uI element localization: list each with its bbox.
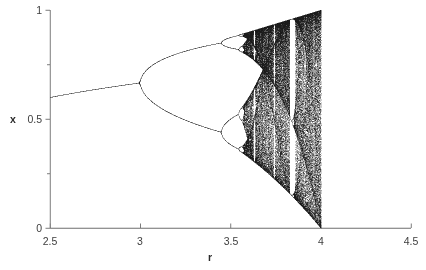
bifurcation-diagram-figure: 1 0.5 0 x 2.5 3 3.5 4 4.5 r bbox=[0, 0, 426, 270]
bifurcation-plot-canvas bbox=[0, 0, 426, 270]
y-axis-title: x bbox=[10, 114, 16, 125]
y-tick-label-1: 1 bbox=[22, 5, 42, 16]
y-tick-label-0-5: 0.5 bbox=[16, 114, 42, 125]
y-tick-label-0: 0 bbox=[22, 223, 42, 234]
x-tick-label-4: 4 bbox=[318, 236, 324, 247]
x-tick-label-3-5: 3.5 bbox=[224, 236, 239, 247]
x-tick-label-3: 3 bbox=[137, 236, 143, 247]
x-tick-label-2-5: 2.5 bbox=[43, 236, 58, 247]
x-tick-label-4-5: 4.5 bbox=[404, 236, 419, 247]
x-axis-title: r bbox=[208, 252, 212, 263]
